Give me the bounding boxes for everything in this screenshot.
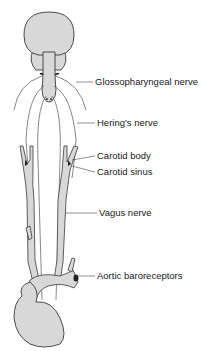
label-carotid-body: Carotid body — [97, 151, 151, 161]
label-herings-nerve: Hering's nerve — [97, 118, 158, 128]
label-carotid-sinus: Carotid sinus — [97, 167, 152, 177]
label-vagus-nerve: Vagus nerve — [99, 208, 152, 218]
nerve-fibers — [14, 76, 86, 300]
vascular-tree — [20, 146, 79, 300]
label-aortic-baroreceptors: Aortic baroreceptors — [97, 271, 183, 281]
label-glossopharyngeal-nerve: Glossopharyngeal nerve — [95, 77, 198, 87]
brain-illustration — [24, 12, 74, 102]
